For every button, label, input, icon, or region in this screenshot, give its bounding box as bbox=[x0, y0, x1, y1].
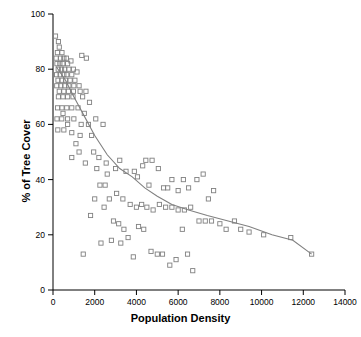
x-tick-label: 0 bbox=[51, 297, 56, 307]
data-point bbox=[61, 111, 65, 115]
data-point bbox=[212, 189, 216, 193]
data-point bbox=[56, 40, 60, 44]
data-point bbox=[84, 89, 88, 93]
data-point bbox=[247, 230, 251, 234]
data-point bbox=[70, 73, 74, 77]
data-point bbox=[66, 95, 70, 99]
data-point bbox=[103, 183, 107, 187]
data-point bbox=[97, 155, 101, 159]
data-point bbox=[78, 133, 82, 137]
data-point bbox=[61, 95, 65, 99]
data-point bbox=[176, 189, 180, 193]
data-point bbox=[201, 172, 205, 176]
data-point bbox=[107, 197, 111, 201]
data-point bbox=[156, 166, 160, 170]
data-point bbox=[189, 205, 193, 209]
data-point bbox=[62, 128, 66, 132]
data-point bbox=[57, 89, 61, 93]
data-point bbox=[55, 117, 59, 121]
data-point bbox=[60, 51, 64, 55]
data-point bbox=[92, 150, 96, 154]
x-tick-label: 4000 bbox=[127, 297, 146, 307]
data-point bbox=[77, 150, 81, 154]
data-point bbox=[109, 238, 113, 242]
data-point bbox=[186, 186, 190, 190]
data-point bbox=[136, 224, 140, 228]
data-point bbox=[68, 78, 72, 82]
x-tick-label: 14000 bbox=[333, 297, 357, 307]
data-point bbox=[111, 219, 115, 223]
data-point bbox=[104, 161, 108, 165]
trend-line-path bbox=[56, 66, 312, 254]
data-point bbox=[58, 62, 62, 66]
data-point bbox=[55, 106, 59, 110]
data-point bbox=[66, 117, 70, 121]
x-tick-label: 2000 bbox=[85, 297, 104, 307]
data-point bbox=[142, 227, 146, 231]
data-point bbox=[132, 169, 136, 173]
data-point bbox=[149, 249, 153, 253]
data-point bbox=[101, 122, 105, 126]
data-point bbox=[145, 205, 149, 209]
data-point bbox=[73, 78, 77, 82]
data-point bbox=[164, 205, 168, 209]
data-point bbox=[181, 178, 185, 182]
data-point bbox=[95, 166, 99, 170]
data-point bbox=[74, 142, 78, 146]
data-point bbox=[218, 222, 222, 226]
data-point bbox=[170, 178, 174, 182]
data-point bbox=[84, 56, 88, 60]
data-point bbox=[155, 252, 159, 256]
plot-area: 0200040006000800010000120001400002040608… bbox=[0, 0, 361, 337]
data-point bbox=[72, 84, 76, 88]
data-point bbox=[150, 158, 154, 162]
data-point bbox=[118, 158, 122, 162]
data-point bbox=[147, 183, 151, 187]
data-point bbox=[135, 175, 139, 179]
data-point bbox=[65, 106, 69, 110]
data-point bbox=[224, 227, 228, 231]
data-point bbox=[157, 202, 161, 206]
y-tick-label: 40 bbox=[36, 175, 46, 185]
data-point bbox=[140, 202, 144, 206]
scatter-chart: 0200040006000800010000120001400002040608… bbox=[0, 0, 361, 337]
y-tick-label: 60 bbox=[36, 119, 46, 129]
data-point bbox=[113, 166, 117, 170]
x-tick-label: 6000 bbox=[169, 297, 188, 307]
data-point bbox=[66, 122, 70, 126]
x-tick-label: 10000 bbox=[250, 297, 274, 307]
data-point bbox=[128, 202, 132, 206]
data-point bbox=[161, 186, 165, 190]
data-point bbox=[176, 208, 180, 212]
x-tick-label: 12000 bbox=[291, 297, 315, 307]
data-point bbox=[79, 122, 83, 126]
data-point bbox=[57, 45, 61, 49]
data-point bbox=[56, 95, 60, 99]
data-point bbox=[94, 117, 98, 121]
data-point bbox=[67, 67, 71, 71]
data-point bbox=[180, 227, 184, 231]
data-point bbox=[126, 235, 130, 239]
data-point bbox=[70, 131, 74, 135]
data-point bbox=[72, 117, 76, 121]
data-point bbox=[144, 158, 148, 162]
x-tick-label: 8000 bbox=[210, 297, 229, 307]
data-point bbox=[53, 34, 57, 38]
data-point bbox=[262, 233, 266, 237]
data-point bbox=[98, 183, 102, 187]
data-point bbox=[209, 219, 213, 223]
data-point bbox=[105, 172, 109, 176]
data-point bbox=[122, 227, 126, 231]
data-point bbox=[134, 205, 138, 209]
data-point bbox=[160, 252, 164, 256]
y-tick-label: 100 bbox=[31, 9, 45, 19]
y-tick-label: 0 bbox=[40, 285, 45, 295]
data-point bbox=[239, 227, 243, 231]
data-point bbox=[89, 133, 93, 137]
data-point bbox=[60, 106, 64, 110]
data-point bbox=[191, 269, 195, 273]
data-point bbox=[151, 208, 155, 212]
data-point bbox=[77, 84, 81, 88]
data-point bbox=[70, 155, 74, 159]
data-point bbox=[81, 95, 85, 99]
